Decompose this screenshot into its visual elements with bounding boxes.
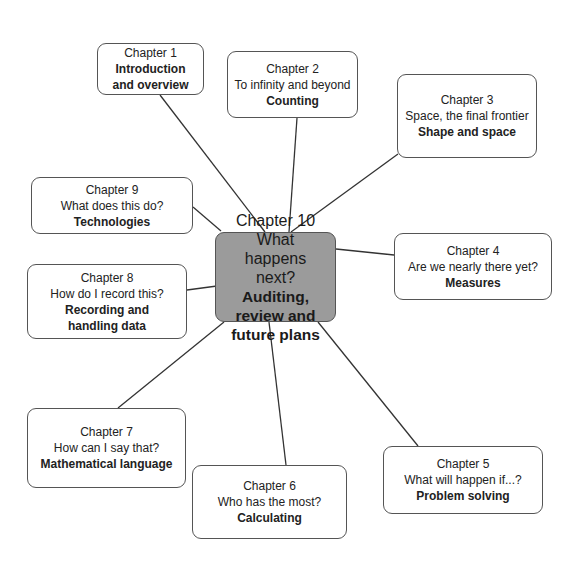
node-topic: Recording and handling data bbox=[57, 302, 157, 334]
link-ch4 bbox=[336, 249, 394, 255]
node-chapter-7[interactable]: Chapter 7 How can I say that? Mathematic… bbox=[27, 408, 186, 488]
node-title: Chapter 7 bbox=[80, 424, 133, 440]
node-title: Chapter 8 bbox=[81, 270, 134, 286]
node-chapter-3[interactable]: Chapter 3 Space, the final frontier Shap… bbox=[397, 74, 537, 158]
center-subtitle: What happens next? bbox=[226, 230, 326, 287]
node-title: Chapter 4 bbox=[447, 243, 500, 259]
node-chapter-10-center[interactable]: Chapter 10 What happens next? Auditing, … bbox=[215, 232, 336, 322]
node-subtitle: What will happen if...? bbox=[404, 472, 521, 488]
link-ch9 bbox=[193, 207, 221, 231]
node-topic: Mathematical language bbox=[40, 456, 172, 472]
node-chapter-4[interactable]: Chapter 4 Are we nearly there yet? Measu… bbox=[394, 233, 552, 300]
node-subtitle: Who has the most? bbox=[218, 494, 321, 510]
node-chapter-8[interactable]: Chapter 8 How do I record this? Recordin… bbox=[27, 264, 187, 339]
node-chapter-1[interactable]: Chapter 1 Introduction and overview bbox=[97, 43, 204, 95]
node-title: Chapter 6 bbox=[243, 478, 296, 494]
center-title: Chapter 10 bbox=[236, 211, 315, 230]
node-chapter-6[interactable]: Chapter 6 Who has the most? Calculating bbox=[192, 465, 347, 539]
node-topic: Counting bbox=[266, 93, 319, 109]
node-topic: Calculating bbox=[237, 510, 302, 526]
node-topic: Shape and space bbox=[418, 124, 516, 140]
node-title: Chapter 2 bbox=[266, 61, 319, 77]
node-subtitle: To infinity and beyond bbox=[234, 77, 350, 93]
node-title: Chapter 3 bbox=[441, 92, 494, 108]
node-chapter-5[interactable]: Chapter 5 What will happen if...? Proble… bbox=[383, 446, 543, 514]
node-subtitle: How can I say that? bbox=[54, 440, 159, 456]
node-subtitle: Are we nearly there yet? bbox=[408, 259, 538, 275]
node-chapter-9[interactable]: Chapter 9 What does this do? Technologie… bbox=[31, 177, 193, 234]
node-chapter-2[interactable]: Chapter 2 To infinity and beyond Countin… bbox=[227, 51, 358, 118]
node-subtitle: Space, the final frontier bbox=[405, 108, 528, 124]
node-topic: Technologies bbox=[74, 214, 150, 230]
node-title: Chapter 9 bbox=[86, 182, 139, 198]
link-ch8 bbox=[187, 286, 217, 290]
center-topic: Auditing, review and future plans bbox=[218, 287, 333, 344]
node-subtitle: What does this do? bbox=[61, 198, 164, 214]
node-topic: Problem solving bbox=[416, 488, 509, 504]
node-title: Chapter 1 bbox=[124, 45, 177, 61]
node-topic: Introduction and overview bbox=[106, 61, 196, 93]
link-ch5 bbox=[318, 322, 418, 446]
node-title: Chapter 5 bbox=[437, 456, 490, 472]
node-topic: Measures bbox=[445, 275, 500, 291]
node-subtitle: How do I record this? bbox=[50, 286, 163, 302]
